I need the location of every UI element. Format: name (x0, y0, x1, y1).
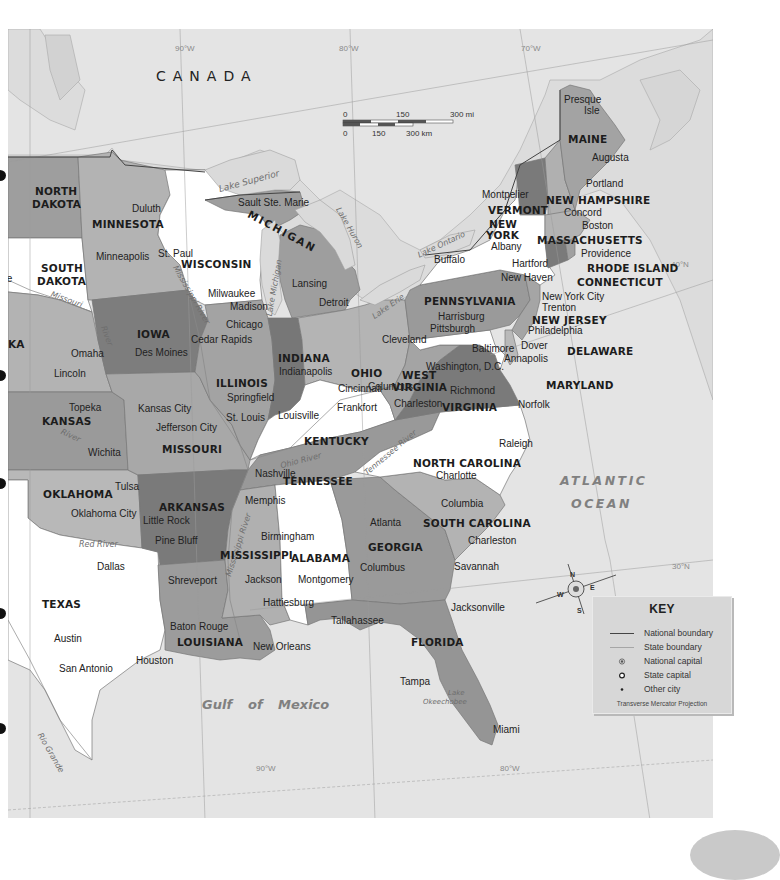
city-label-baton-rouge: Baton Rouge (170, 622, 228, 632)
city-label-boston: Boston (582, 221, 613, 231)
key-label: National boundary (644, 628, 713, 638)
national-capital-icon (610, 657, 634, 666)
grid-label-90w-bottom: 90°W (256, 765, 276, 773)
state-label-virginia: VIRGINIA (442, 402, 497, 413)
city-label-little-rock: Little Rock (143, 516, 190, 526)
city-label-st-paul: St. Paul (158, 249, 193, 259)
river-label-red: Red River (79, 541, 118, 549)
state-label-new-hampshire: NEW HAMPSHIRE (546, 195, 650, 206)
city-label-pine-bluff: Pine Bluff (155, 536, 198, 546)
state-label-texas: TEXAS (42, 599, 81, 610)
state-label-north-dakota-2: DAKOTA (32, 199, 81, 210)
gulf-label-1: Gulf (202, 698, 232, 711)
city-label-kansas-city: Kansas City (138, 404, 191, 414)
compass-e: E (590, 584, 595, 591)
lake-label-okeechobee-2: Okeechobee (423, 699, 467, 706)
city-label-jacksonville: Jacksonville (451, 603, 505, 613)
state-label-kentucky: KENTUCKY (304, 436, 369, 447)
city-label-miami: Miami (493, 725, 520, 735)
state-label-missouri: MISSOURI (162, 444, 222, 455)
city-label-lincoln: Lincoln (54, 369, 86, 379)
state-label-pennsylvania: PENNSYLVANIA (424, 296, 516, 307)
key-item-state-capital: State capital (592, 670, 732, 681)
city-label-minneapolis: Minneapolis (96, 252, 149, 262)
key-label: State capital (644, 670, 691, 680)
lake-label-okeechobee-1: Lake (448, 690, 465, 697)
state-label-illinois: ILLINOIS (216, 378, 268, 389)
map-key: KEY National boundary State boundary Nat… (592, 596, 732, 714)
state-label-minnesota: MINNESOTA (92, 219, 164, 230)
grid-label-70w-top: 70°W (521, 45, 541, 53)
city-label-raleigh: Raleigh (499, 439, 533, 449)
city-label-columbia: Columbia (441, 499, 483, 509)
city-label-atlanta: Atlanta (370, 518, 401, 528)
binder-hole (0, 723, 6, 734)
city-label-hattiesburg: Hattiesburg (263, 598, 314, 608)
city-label-annapolis: Annapolis (504, 354, 548, 364)
state-label-new-jersey: NEW JERSEY (532, 315, 607, 326)
city-label-cincinnati: Cincinnati (338, 384, 382, 394)
gulf-label-2: of (248, 698, 263, 711)
city-label-omaha: Omaha (71, 349, 104, 359)
state-label-connecticut: CONNECTICUT (577, 277, 663, 288)
city-label-richmond: Richmond (450, 386, 495, 396)
city-label-birmingham: Birmingham (261, 532, 314, 542)
state-label-nebraska: KA (8, 339, 25, 350)
state-label-indiana: INDIANA (278, 353, 330, 364)
scale-mi-300: 300 mi (450, 111, 474, 119)
state-label-alabama: ALABAMA (291, 553, 350, 564)
city-label-jefferson-city: Jefferson City (156, 423, 217, 433)
city-label-shreveport: Shreveport (168, 576, 217, 586)
city-label-dallas: Dallas (97, 562, 125, 572)
compass-s: S (577, 607, 582, 614)
key-item-other-city: Other city (592, 684, 732, 695)
state-label-south-dakota-2: DAKOTA (37, 276, 86, 287)
city-label-cedar-rapids: Cedar Rapids (191, 335, 252, 345)
city-label-springfield: Springfield (227, 393, 274, 403)
key-label: State boundary (644, 642, 702, 652)
state-label-kansas: KANSAS (42, 416, 92, 427)
state-label-ohio: OHIO (351, 368, 382, 379)
city-label-detroit: Detroit (319, 298, 348, 308)
city-label-albany: Albany (491, 242, 522, 252)
city-label-washington-dc: Washington, D.C. (426, 362, 504, 372)
city-label-presque-isle-2: Isle (584, 106, 600, 116)
state-label-south-dakota-1: SOUTH (41, 263, 83, 274)
city-label-new-orleans: New Orleans (253, 642, 311, 652)
scale-bar (343, 120, 453, 126)
city-label-harrisburg: Harrisburg (438, 312, 485, 322)
city-label-memphis: Memphis (245, 496, 286, 506)
city-label-wichita: Wichita (88, 448, 121, 458)
state-label-new-york-2: YORK (486, 230, 519, 241)
city-label-montgomery: Montgomery (298, 575, 354, 585)
grid-label-80w-top: 80°W (339, 45, 359, 53)
key-item-state-boundary: State boundary (592, 642, 732, 653)
city-label-des-moines: Des Moines (135, 348, 188, 358)
city-label-norfolk: Norfolk (518, 400, 550, 410)
key-item-national-capital: National capital (592, 656, 732, 667)
city-label-st-louis: St. Louis (226, 413, 265, 423)
city-label-portland: Portland (586, 179, 623, 189)
city-label-charleston-wv: Charleston (394, 399, 442, 409)
state-label-wisconsin: WISCONSIN (181, 259, 252, 270)
city-label-milwaukee: Milwaukee (208, 289, 255, 299)
state-label-louisiana: LOUISIANA (177, 637, 243, 648)
state-label-maine: MAINE (568, 134, 607, 145)
ocean-label-atlantic-1: ATLANTIC (560, 475, 647, 488)
compass-w: W (557, 591, 564, 598)
city-label-lansing: Lansing (292, 279, 327, 289)
city-label-dover: Dover (521, 341, 548, 351)
projection-note: Transverse Mercator Projection (592, 700, 732, 707)
city-label-columbus-ga: Columbus (360, 563, 405, 573)
binder-hole (0, 478, 6, 489)
state-label-delaware: DELAWARE (567, 346, 633, 357)
city-label-savannah: Savannah (454, 562, 499, 572)
state-label-massachusetts: MASSACHUSETTS (537, 235, 643, 246)
city-label-topeka: Topeka (69, 403, 101, 413)
city-label-tulsa: Tulsa (115, 482, 139, 492)
city-label-chicago: Chicago (226, 320, 263, 330)
scale-km-0: 0 (343, 130, 347, 138)
state-boundary-line-icon (610, 643, 634, 652)
state-label-south-carolina: SOUTH CAROLINA (423, 518, 531, 529)
city-label-frankfort: Frankfort (337, 403, 377, 413)
